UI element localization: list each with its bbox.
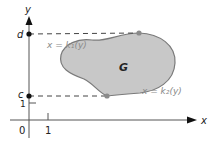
curve-label-left: x = k₁(y) <box>46 40 87 50</box>
y-tick-label: 1 <box>20 99 26 109</box>
region-label: G <box>119 61 128 74</box>
point-d <box>26 31 31 36</box>
x-tick-label: 1 <box>45 125 51 136</box>
y-axis-label: y <box>24 4 32 15</box>
origin-label: 0 <box>19 125 25 136</box>
dashed-line-d <box>29 33 139 34</box>
y-axis-arrow-icon <box>26 16 33 25</box>
x-axis-arrow-icon <box>187 117 197 124</box>
x-axis-label: x <box>200 115 207 126</box>
label-d: d <box>17 29 24 40</box>
point-bottom-curve <box>104 93 109 98</box>
point-c <box>26 93 31 98</box>
point-top-curve <box>136 30 141 35</box>
region-diagram: y x d c 1 0 1 G x = k₁(y) x = k₂(y) <box>0 0 221 143</box>
curve-label-right: x = k₂(y) <box>141 86 182 96</box>
